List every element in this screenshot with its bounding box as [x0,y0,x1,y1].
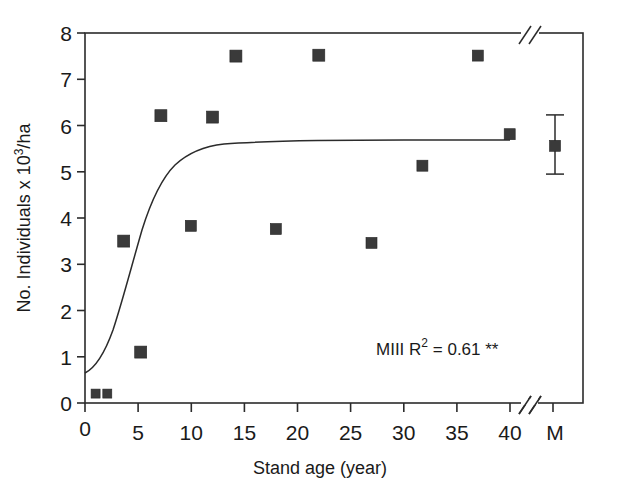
y-axis-title-prefix: No. Individuals x 10 [14,155,34,312]
y-axis-title: No. Individuals x 103/ha [12,123,34,313]
annotation-equals: = [428,340,447,359]
x-tick-label-10: 10 [180,421,203,444]
x-axis-break-top-icon [519,26,541,44]
x-tick-label-15: 15 [233,421,256,444]
x-tick-label-20: 20 [286,421,309,444]
data-point [155,110,167,122]
y-tick-label-5: 5 [60,161,72,184]
x-tick-label-25: 25 [339,421,362,444]
data-point [103,389,112,398]
y-axis-title-suffix: /ha [14,123,34,149]
data-point [91,389,100,398]
plot-frame [85,33,583,403]
data-point [207,111,219,123]
x-axis-title: Stand age (year) [253,458,387,478]
x-tick-label-40: 40 [498,421,521,444]
annotation-significance: ** [485,340,499,359]
annotation-stat: R [409,340,421,359]
x-tick-label-0: 0 [79,417,91,440]
x-tick-label-mature: M [546,421,564,444]
data-point [417,160,428,171]
model-annotation: MIII R2 = 0.61 ** [376,336,499,359]
y-tick-label-6: 6 [60,115,72,138]
y-tick-label-7: 7 [60,68,72,91]
mature-stand-errorbar-group [546,115,564,174]
data-point [270,224,281,235]
data-point [366,237,377,248]
x-tick-label-30: 30 [392,421,415,444]
chart-figure: 0 1 2 3 4 5 6 7 8 No. Individuals x 103/… [0,0,619,483]
y-tick-label-3: 3 [60,253,72,276]
svg-text:No. Individuals x 103/ha: No. Individuals x 103/ha [12,123,34,313]
data-point [118,235,130,247]
data-point [313,49,325,61]
y-tick-label-2: 2 [60,300,72,323]
data-point [230,50,242,62]
annotation-model: MIII [376,340,404,359]
x-axis-break-bottom-icon [519,396,541,414]
y-tick-label-0: 0 [60,392,72,415]
y-tick-label-4: 4 [60,207,72,230]
x-tick-label-35: 35 [445,421,468,444]
y-tick-marks [77,33,85,403]
data-point-mature-mean [550,140,561,151]
x-tick-label-5: 5 [132,421,144,444]
y-tick-label-1: 1 [60,346,72,369]
x-axis: 0 5 10 15 20 25 30 35 40 M Stand age (ye… [79,26,564,478]
data-point [135,346,147,358]
data-point [504,129,515,140]
data-point [185,220,196,231]
data-point [472,50,483,61]
y-axis: 0 1 2 3 4 5 6 7 8 No. Individuals x 103/… [12,22,85,415]
annotation-value: 0.61 [447,340,480,359]
chart-svg: 0 1 2 3 4 5 6 7 8 No. Individuals x 103/… [0,0,619,483]
y-tick-label-8: 8 [60,22,72,45]
fitted-curve-miii [85,140,510,373]
x-tick-marks [85,403,553,412]
